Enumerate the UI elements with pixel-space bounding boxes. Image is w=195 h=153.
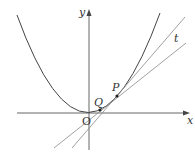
x-axis-label: x	[187, 114, 194, 127]
point-q-label: Q	[94, 96, 103, 109]
tangent-label: t	[174, 32, 179, 45]
y-axis-arrow-icon	[87, 9, 92, 16]
point-p-label: P	[111, 81, 120, 94]
y-axis-label: y	[78, 6, 86, 19]
origin-label: O	[82, 115, 91, 128]
secant-line-pq	[54, 43, 186, 148]
parabola-curve	[17, 13, 160, 113]
point-p	[115, 94, 118, 97]
diagram-canvas: y x O P Q t	[0, 0, 195, 153]
